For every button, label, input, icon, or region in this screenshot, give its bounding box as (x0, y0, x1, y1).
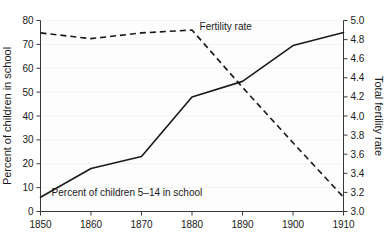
y2-axis-tick-label: 4.2 (351, 91, 365, 102)
y-axis-tick-label: 40 (22, 111, 34, 122)
left-axis-ticks: 01020304050607080 (22, 15, 40, 217)
y2-axis-tick-label: 3.8 (351, 130, 365, 141)
annotation-fertility-rate: Fertility rate (200, 21, 253, 32)
y2-axis-tick-label: 3.4 (351, 168, 365, 179)
y-axis-tick-label: 80 (22, 15, 34, 26)
chart-container: 01020304050607080 3.03.23.43.63.84.04.24… (0, 0, 385, 246)
y-axis-tick-label: 60 (22, 63, 34, 74)
y-axis-tick-label: 50 (22, 87, 34, 98)
annotation-percent-in-school: Percent of children 5–14 in school (52, 187, 203, 198)
left-axis-title: Percent of children in school (1, 47, 13, 185)
x-axis-tick-label: 1900 (282, 219, 305, 230)
y2-axis-tick-label: 3.0 (351, 206, 365, 217)
right-axis-title: Total fertility rate (373, 76, 385, 156)
x-axis-tick-label: 1880 (181, 219, 204, 230)
y2-axis-tick-label: 4.4 (351, 72, 365, 83)
x-axis-tick-label: 1890 (231, 219, 254, 230)
y-axis-tick-label: 10 (22, 182, 34, 193)
y2-axis-tick-label: 3.2 (351, 187, 365, 198)
x-axis-tick-label: 1850 (29, 219, 52, 230)
y2-axis-tick-label: 4.6 (351, 53, 365, 64)
y2-axis-tick-label: 5.0 (351, 15, 365, 26)
line-chart: 01020304050607080 3.03.23.43.63.84.04.24… (0, 0, 385, 246)
y-axis-tick-label: 30 (22, 134, 34, 145)
y2-axis-tick-label: 4.8 (351, 34, 365, 45)
y-axis-tick-label: 0 (28, 206, 34, 217)
y2-axis-tick-label: 4.0 (351, 111, 365, 122)
x-axis-tick-label: 1860 (80, 219, 103, 230)
right-axis-ticks: 3.03.23.43.63.84.04.24.44.64.85.0 (344, 15, 365, 217)
y-axis-tick-label: 20 (22, 158, 34, 169)
x-axis-tick-label: 1910 (332, 219, 355, 230)
x-axis-tick-label: 1870 (130, 219, 153, 230)
y-axis-tick-label: 70 (22, 39, 34, 50)
x-axis-ticks: 1850186018701880189019001910 (29, 212, 355, 230)
y2-axis-tick-label: 3.6 (351, 149, 365, 160)
